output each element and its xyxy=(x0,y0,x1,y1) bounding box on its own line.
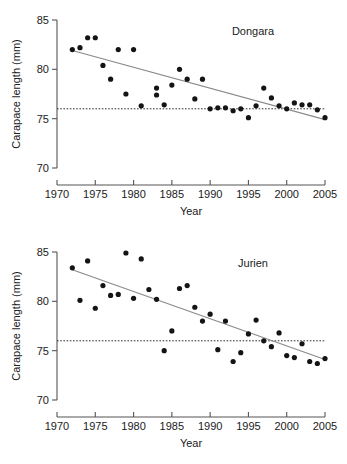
panel-dongara: 7075808519701975198019851990199520002005… xyxy=(0,0,347,232)
data-point xyxy=(215,347,220,352)
data-point xyxy=(192,305,197,310)
data-point xyxy=(276,330,281,335)
data-point xyxy=(276,103,281,108)
data-point xyxy=(154,85,159,90)
data-point xyxy=(108,77,113,82)
x-tick-label: 2000 xyxy=(274,188,298,200)
data-point xyxy=(292,355,297,360)
x-tick-label: 2000 xyxy=(274,420,298,432)
x-axis-title: Year xyxy=(180,437,203,449)
x-tick-label: 1980 xyxy=(121,420,145,432)
data-point xyxy=(231,108,236,113)
panel-title: Jurien xyxy=(238,257,268,269)
figure-carapace-length-trends: 7075808519701975198019851990199520002005… xyxy=(0,0,347,464)
data-point xyxy=(192,96,197,101)
x-tick-label: 1970 xyxy=(45,188,69,200)
data-point xyxy=(246,331,251,336)
chart-jurien: 7075808519701975198019851990199520002005… xyxy=(0,232,347,464)
x-tick-label: 1985 xyxy=(160,420,184,432)
data-point xyxy=(307,102,312,107)
data-point xyxy=(315,107,320,112)
data-point xyxy=(154,92,159,97)
y-tick-label: 85 xyxy=(37,14,49,26)
data-point xyxy=(185,283,190,288)
data-point xyxy=(162,102,167,107)
data-point xyxy=(185,77,190,82)
y-tick-label: 80 xyxy=(37,295,49,307)
data-point xyxy=(169,328,174,333)
data-point xyxy=(269,344,274,349)
y-tick-label: 70 xyxy=(37,162,49,174)
y-axis-title: Carapace length (mm) xyxy=(10,271,22,380)
trend-line xyxy=(72,270,325,360)
data-point xyxy=(131,47,136,52)
data-point xyxy=(116,47,121,52)
data-point xyxy=(253,103,258,108)
data-point xyxy=(169,83,174,88)
data-point xyxy=(108,293,113,298)
x-tick-label: 1980 xyxy=(121,188,145,200)
data-point xyxy=(85,258,90,263)
x-tick-label: 1995 xyxy=(236,420,260,432)
data-point xyxy=(238,106,243,111)
data-point xyxy=(253,317,258,322)
x-tick-label: 1995 xyxy=(236,188,260,200)
y-tick-label: 75 xyxy=(37,345,49,357)
x-tick-label: 1970 xyxy=(45,420,69,432)
data-point xyxy=(215,105,220,110)
x-tick-label: 1985 xyxy=(160,188,184,200)
data-point xyxy=(261,338,266,343)
y-tick-label: 85 xyxy=(37,246,49,258)
data-point xyxy=(238,350,243,355)
data-point xyxy=(100,63,105,68)
data-point xyxy=(322,115,327,120)
y-tick-label: 70 xyxy=(37,394,49,406)
data-point xyxy=(307,359,312,364)
data-point xyxy=(246,115,251,120)
chart-dongara-content: 7075808519701975198019851990199520002005… xyxy=(10,14,337,217)
data-point xyxy=(93,306,98,311)
data-point xyxy=(116,292,121,297)
data-point xyxy=(70,265,75,270)
data-point xyxy=(123,91,128,96)
data-point xyxy=(208,312,213,317)
data-point xyxy=(200,77,205,82)
data-point xyxy=(154,297,159,302)
data-point xyxy=(139,256,144,261)
data-point xyxy=(177,67,182,72)
data-point xyxy=(146,287,151,292)
data-point xyxy=(269,95,274,100)
data-point xyxy=(131,296,136,301)
chart-jurien-content: 7075808519701975198019851990199520002005… xyxy=(10,246,337,449)
data-point xyxy=(77,45,82,50)
data-point xyxy=(315,361,320,366)
x-tick-label: 1990 xyxy=(198,188,222,200)
data-point xyxy=(261,85,266,90)
x-axis-title: Year xyxy=(180,205,203,217)
data-point xyxy=(284,106,289,111)
data-point xyxy=(93,35,98,40)
data-point xyxy=(85,35,90,40)
data-point xyxy=(299,341,304,346)
data-point xyxy=(208,106,213,111)
x-tick-label: 2005 xyxy=(313,188,337,200)
data-point xyxy=(231,359,236,364)
data-point xyxy=(223,318,228,323)
x-tick-label: 1975 xyxy=(83,420,107,432)
data-point xyxy=(177,286,182,291)
data-point xyxy=(284,353,289,358)
panel-jurien: 7075808519701975198019851990199520002005… xyxy=(0,232,347,464)
data-point xyxy=(77,298,82,303)
data-point xyxy=(292,100,297,105)
x-tick-label: 2005 xyxy=(313,420,337,432)
data-point xyxy=(299,102,304,107)
panel-title: Dongara xyxy=(232,25,275,37)
data-point xyxy=(70,47,75,52)
x-tick-label: 1975 xyxy=(83,188,107,200)
chart-dongara: 7075808519701975198019851990199520002005… xyxy=(0,0,347,232)
data-point xyxy=(200,318,205,323)
y-tick-label: 75 xyxy=(37,113,49,125)
y-axis-title: Carapace length (mm) xyxy=(10,39,22,148)
data-point xyxy=(100,283,105,288)
data-point xyxy=(139,103,144,108)
